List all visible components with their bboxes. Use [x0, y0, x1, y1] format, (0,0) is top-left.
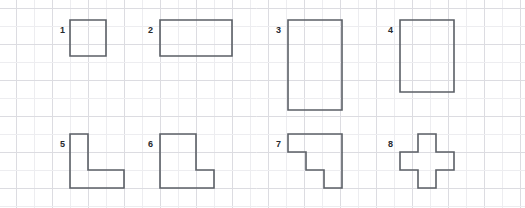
grid-background — [0, 0, 525, 208]
geometry-worksheet: 12345678 — [0, 0, 525, 208]
